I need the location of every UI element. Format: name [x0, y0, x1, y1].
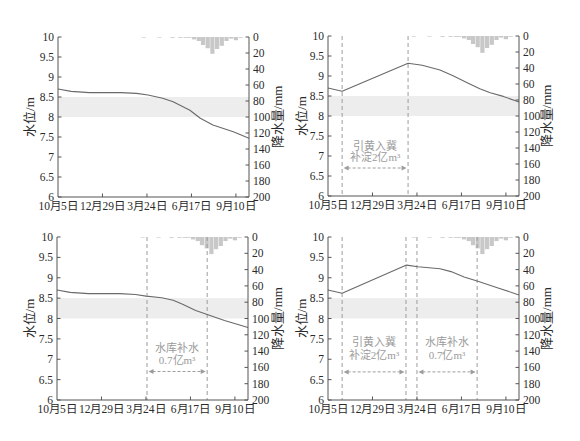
left-tick-label: 7 [47, 353, 53, 365]
left-tick-label: 9.5 [310, 251, 325, 263]
right-tick-label: 0 [523, 30, 529, 42]
right-tick-label: 80 [523, 94, 535, 106]
right-tick-label: 120 [523, 329, 541, 341]
right-tick-label: 120 [523, 126, 541, 138]
precipitation-bar [454, 237, 458, 238]
right-tick-label: 100 [252, 313, 270, 325]
left-tick-label: 9 [48, 71, 54, 83]
precipitation-bar [209, 237, 213, 254]
right-tick-label: 60 [523, 78, 535, 90]
left-tick-label: 7 [48, 151, 54, 163]
precipitation-bar [239, 37, 243, 38]
x-tick-label: 9月10日 [216, 200, 255, 212]
precipitation-bar [219, 237, 223, 246]
x-tick-label: 9月10日 [215, 403, 254, 415]
annotation: 引黄入冀补淀2亿m³ [344, 139, 407, 171]
precipitation-bar [499, 36, 503, 38]
precipitation-bar [504, 36, 508, 39]
precipitation-bar [178, 37, 182, 38]
precipitation-bar [448, 237, 452, 238]
precipitation-bar [206, 37, 210, 48]
x-tick-label: 3月24日 [397, 199, 436, 211]
left-tick-label: 10 [313, 231, 325, 243]
axes: 109.598.587.576.560204060801001201401601… [308, 30, 540, 211]
left-axis-title: 水位/m [294, 299, 309, 339]
x-tick-label: 9月10日 [486, 199, 525, 211]
right-axis-title: 降水量/mm [539, 287, 554, 350]
precipitation-bars [142, 37, 243, 54]
right-tick-label: 140 [523, 142, 541, 154]
precipitation-bar [228, 237, 232, 239]
right-tick-label: 40 [523, 62, 535, 74]
right-tick-label: 200 [252, 394, 270, 406]
precipitation-bar [509, 36, 513, 37]
x-tick-label: 6月17日 [171, 403, 210, 415]
right-tick-label: 60 [523, 280, 535, 292]
arrow-right-icon [402, 166, 407, 171]
left-tick-label: 6.5 [310, 170, 325, 182]
left-tick-label: 8 [318, 313, 324, 325]
precipitation-bar [485, 36, 489, 48]
four-panel-water-level-figure: 109.598.587.576.560204060801001201401601… [0, 0, 580, 441]
left-tick-label: 7.5 [310, 130, 325, 142]
x-tick-label: 10月5日 [308, 199, 347, 211]
precipitation-bar [229, 37, 233, 39]
left-tick-label: 8.5 [40, 91, 55, 103]
left-tick-label: 6.5 [40, 171, 55, 183]
annotation-text: 0.7亿m³ [159, 354, 196, 366]
precipitation-bar [223, 237, 227, 241]
right-tick-label: 180 [523, 378, 541, 390]
left-tick-label: 7.5 [310, 333, 325, 345]
precipitation-bar [214, 237, 218, 249]
right-tick-label: 0 [523, 231, 529, 243]
precipitation-bar [141, 237, 145, 238]
left-tick-label: 8 [48, 111, 54, 123]
right-tick-label: 140 [252, 345, 270, 357]
precipitation-bar [504, 237, 508, 240]
left-tick-label: 10 [42, 231, 54, 243]
right-tick-label: 160 [523, 158, 541, 170]
right-tick-label: 160 [523, 361, 541, 373]
right-tick-label: 40 [252, 264, 264, 276]
left-tick-label: 7.5 [39, 333, 54, 345]
precipitation-bar [224, 37, 228, 41]
x-tick-label: 12月29日 [350, 403, 395, 415]
precipitation-bar [157, 37, 161, 38]
arrow-right-icon [471, 369, 476, 374]
right-tick-label: 80 [252, 296, 264, 308]
x-tick-label: 9月10日 [486, 403, 525, 415]
right-axis-title: 降水量/mm [270, 287, 285, 350]
x-tick-label: 12月29日 [79, 403, 124, 415]
left-tick-label: 10 [43, 31, 55, 43]
precipitation-bar [171, 37, 175, 38]
right-tick-label: 20 [523, 46, 535, 58]
precipitation-bar [476, 237, 480, 248]
left-tick-label: 7.5 [40, 131, 55, 143]
precipitation-bar [441, 36, 445, 37]
precipitation-bar [183, 237, 187, 238]
left-tick-label: 8 [47, 313, 53, 325]
annotation-text: 补淀2亿m³ [350, 150, 401, 163]
precipitation-bar [480, 237, 484, 254]
arrow-right-icon [399, 369, 404, 374]
right-tick-label: 40 [523, 264, 535, 276]
annotation-text: 水库补水 [425, 336, 469, 348]
x-tick-label: 3月24日 [397, 403, 436, 415]
left-tick-label: 8.5 [39, 292, 54, 304]
x-tick-label: 12月29日 [350, 199, 395, 211]
precipitation-bar [467, 36, 471, 40]
x-tick-label: 10月5日 [37, 403, 76, 415]
annotation: 引黄入冀补淀2亿m³ [344, 335, 405, 375]
precipitation-bar [457, 36, 461, 37]
precipitation-bar [509, 237, 513, 238]
reference-band [328, 298, 519, 318]
arrow-left-icon [418, 369, 423, 374]
precipitation-bar [494, 36, 498, 40]
chart-panel-b: 引黄入冀补淀2亿m³109.598.587.576.56020406080100… [294, 30, 554, 211]
right-tick-label: 200 [523, 190, 541, 202]
precipitation-bar [448, 36, 452, 37]
precipitation-bar [462, 237, 466, 239]
precipitation-bar [197, 37, 201, 41]
annotation-text: 水库补水 [155, 342, 199, 354]
reference-band [57, 298, 248, 318]
